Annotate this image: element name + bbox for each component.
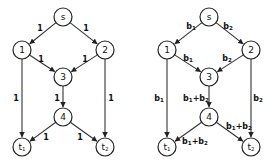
node-label-s: s — [207, 12, 212, 22]
edge-label-4-t1: b1​+b2​ — [182, 137, 208, 147]
edge-label-1-3: b1​ — [183, 54, 193, 64]
network-coding-diagram: s1234t1​t2​s1234t1​t2​ 111111111b1​b2​b1… — [0, 0, 273, 165]
edge-label-2-3: b2​ — [222, 54, 232, 64]
edge-label-s-1: 1 — [37, 24, 43, 33]
edge-label-s-2: 1 — [83, 24, 89, 33]
node-label-3: 3 — [60, 72, 66, 82]
edge-s-1 — [30, 23, 56, 44]
node-label-1: 1 — [164, 45, 170, 55]
edge-label-1-3: 1 — [38, 55, 44, 64]
node-label-s: s — [61, 12, 66, 22]
edge-label-1-t1: 1 — [13, 94, 19, 103]
node-label-4: 4 — [60, 112, 66, 122]
edge-label-4-t1: 1 — [43, 133, 49, 142]
edge-label-3-4: b1​+b2​ — [183, 94, 209, 104]
edge-label-4-t2: 1 — [77, 133, 83, 142]
edge-label-2-t2: 1 — [108, 94, 114, 103]
edge-label-2-3: 1 — [82, 55, 88, 64]
node-label-1: 1 — [19, 45, 25, 55]
node-label-2: 2 — [248, 45, 254, 55]
node-label-3: 3 — [206, 72, 212, 82]
edge-label-s-1: b1​ — [186, 22, 196, 32]
edge-label-3-4: 1 — [54, 94, 60, 103]
edge-4-t2 — [70, 122, 97, 141]
edge-label-s-2: b2​ — [223, 22, 233, 32]
edge-label-4-t2: b1​+b2​ — [226, 122, 252, 132]
edge-labels: 111111111b1​b2​b1​b2​b1​b1​+b2​b2​b1​+b2… — [13, 22, 263, 147]
edge-label-2-t2: b2​ — [253, 94, 263, 104]
node-label-4: 4 — [206, 112, 212, 122]
edge-label-1-t1: b1​ — [154, 94, 164, 104]
node-label-2: 2 — [102, 45, 108, 55]
